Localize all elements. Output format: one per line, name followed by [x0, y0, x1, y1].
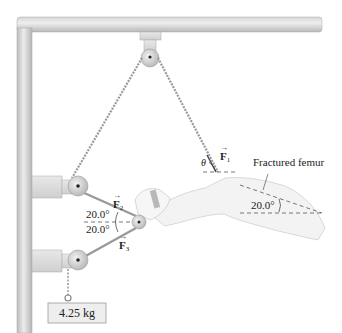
f3-vector-arrow: →: [119, 232, 127, 241]
vertical-bar: [17, 28, 32, 333]
frame: [17, 17, 322, 333]
f2-label: F2: [113, 198, 124, 212]
f1-label: F1: [220, 150, 231, 164]
traction-diagram: F1 → θ Fractured femur 20.0° F2 → 20.0° …: [0, 0, 342, 333]
horizontal-bar: [17, 17, 322, 32]
lower-side-pulley: [32, 250, 88, 272]
upper-side-pulley: [32, 176, 88, 198]
leg: [132, 174, 325, 240]
f3-label: F3: [119, 239, 130, 253]
ropes: [68, 58, 218, 296]
f1-vector-arrow: →: [220, 143, 228, 152]
femur-label: Fractured femur: [253, 156, 324, 168]
f2-vector-arrow: →: [113, 191, 121, 200]
femur-angle-label: 20.0°: [251, 199, 275, 211]
theta-label: θ: [201, 157, 206, 168]
top-pulley: [140, 32, 161, 67]
angle-lower-label: 20.0°: [86, 223, 110, 235]
angle-upper-label: 20.0°: [86, 208, 110, 220]
mass-label: 4.25 kg: [48, 303, 106, 323]
